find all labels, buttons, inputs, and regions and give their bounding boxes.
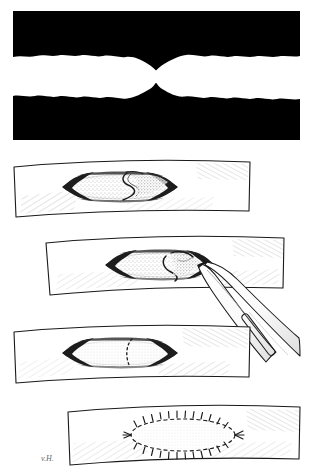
- panel-web-excised: [14, 325, 250, 383]
- closure-surface: [133, 420, 233, 450]
- panel-radiograph: [13, 11, 300, 140]
- aperture-interior: [63, 338, 177, 369]
- surgical-illustration-figure: v.H.: [0, 0, 313, 475]
- panel-closure: v.H.: [41, 405, 300, 465]
- artist-signature: v.H.: [41, 454, 54, 463]
- panel-exposed-web: [14, 160, 250, 217]
- figure-canvas: v.H.: [0, 0, 313, 475]
